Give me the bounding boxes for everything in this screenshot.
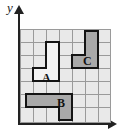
figure-root: y A (0, 0, 119, 133)
gridline-horizontal (20, 42, 111, 43)
gridline-horizontal (20, 94, 111, 95)
gridline-horizontal (20, 107, 111, 108)
y-axis-arrow-icon (14, 5, 24, 14)
gridline-horizontal (20, 122, 111, 123)
grid-plot (20, 29, 111, 123)
gridline-vertical (20, 29, 21, 123)
gridline-vertical (110, 29, 111, 123)
shape-label-c: C (83, 55, 92, 67)
gridline-vertical (72, 29, 73, 123)
gridline-horizontal (20, 68, 111, 69)
gridline-vertical (85, 29, 86, 123)
shape-label-b: B (57, 97, 65, 109)
gridline-horizontal (20, 55, 111, 56)
gridline-vertical (33, 29, 34, 123)
x-axis-line (18, 123, 113, 125)
shape-label-a: A (42, 72, 51, 84)
y-axis-label: y (7, 1, 13, 14)
gridline-horizontal (20, 29, 111, 30)
gridline-vertical (98, 29, 99, 123)
gridline-horizontal (20, 81, 111, 82)
